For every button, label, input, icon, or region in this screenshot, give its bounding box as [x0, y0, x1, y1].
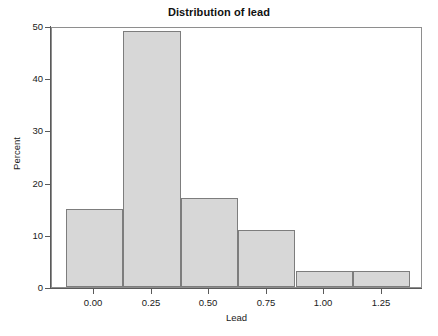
y-axis-tick-label: 0 — [15, 283, 43, 292]
histogram-bar — [66, 209, 123, 287]
y-axis-tick — [45, 79, 51, 80]
plot-area — [51, 27, 422, 288]
x-axis-tick-label: 0.75 — [246, 297, 286, 308]
y-axis-title: Percent — [11, 124, 22, 184]
y-axis-tick — [45, 184, 51, 185]
x-axis-tick — [266, 289, 267, 294]
x-axis-tick — [323, 289, 324, 294]
bars-layer — [52, 28, 421, 287]
y-axis-tick — [45, 131, 51, 132]
y-axis-line — [50, 26, 51, 289]
y-axis-tick-label: 10 — [15, 231, 43, 240]
histogram-bar — [123, 31, 180, 287]
y-axis-tick — [45, 236, 51, 237]
y-axis-tick — [45, 27, 51, 28]
chart-title: Distribution of lead — [0, 6, 438, 18]
y-axis-tick-label: 40 — [15, 74, 43, 83]
x-axis-tick-label: 0.50 — [188, 297, 228, 308]
x-axis-tick-label: 1.00 — [303, 297, 343, 308]
x-axis-title: Lead — [51, 312, 422, 323]
y-axis-tick-label: 50 — [15, 22, 43, 31]
x-axis-tick-label: 0.25 — [131, 297, 171, 308]
histogram-chart: Distribution of lead 01020304050 Percent… — [0, 0, 438, 336]
histogram-bar — [353, 271, 410, 287]
histogram-bar — [238, 230, 295, 287]
histogram-bar — [181, 198, 238, 287]
histogram-bar — [296, 271, 353, 287]
x-axis-tick-label: 0.00 — [73, 297, 113, 308]
x-axis-tick — [93, 289, 94, 294]
x-axis-tick-label: 1.25 — [361, 297, 401, 308]
x-axis-line — [46, 288, 422, 289]
x-axis-tick — [208, 289, 209, 294]
x-axis-tick — [151, 289, 152, 294]
x-axis-tick — [381, 289, 382, 294]
